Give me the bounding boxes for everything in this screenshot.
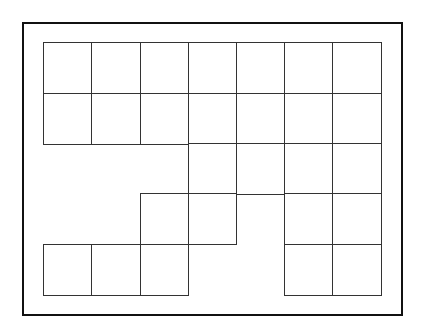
grid-cell [188,93,238,145]
grid-cell [332,42,382,94]
grid-cell [284,244,334,296]
grid-cell [91,93,141,145]
grid-cell [140,193,190,245]
grid-cell [43,244,93,296]
grid-cell [140,244,190,296]
grid-cell [332,93,382,145]
grid-cell [236,143,286,195]
grid-cell [284,143,334,195]
grid-cell [332,193,382,245]
grid-cell [140,42,190,94]
grid-cell [284,93,334,145]
grid-cell [332,143,382,195]
grid-shape [0,0,426,333]
grid-cell [236,93,286,145]
grid-cell [43,42,93,94]
grid-cell [284,42,334,94]
grid-cell [188,42,238,94]
grid-cell [91,244,141,296]
grid-cell [140,93,190,145]
grid-cell [188,193,238,245]
grid-cell [332,244,382,296]
grid-cell [236,42,286,94]
grid-cell [43,93,93,145]
grid-cell [188,143,238,195]
grid-cell [284,193,334,245]
grid-cell [91,42,141,94]
